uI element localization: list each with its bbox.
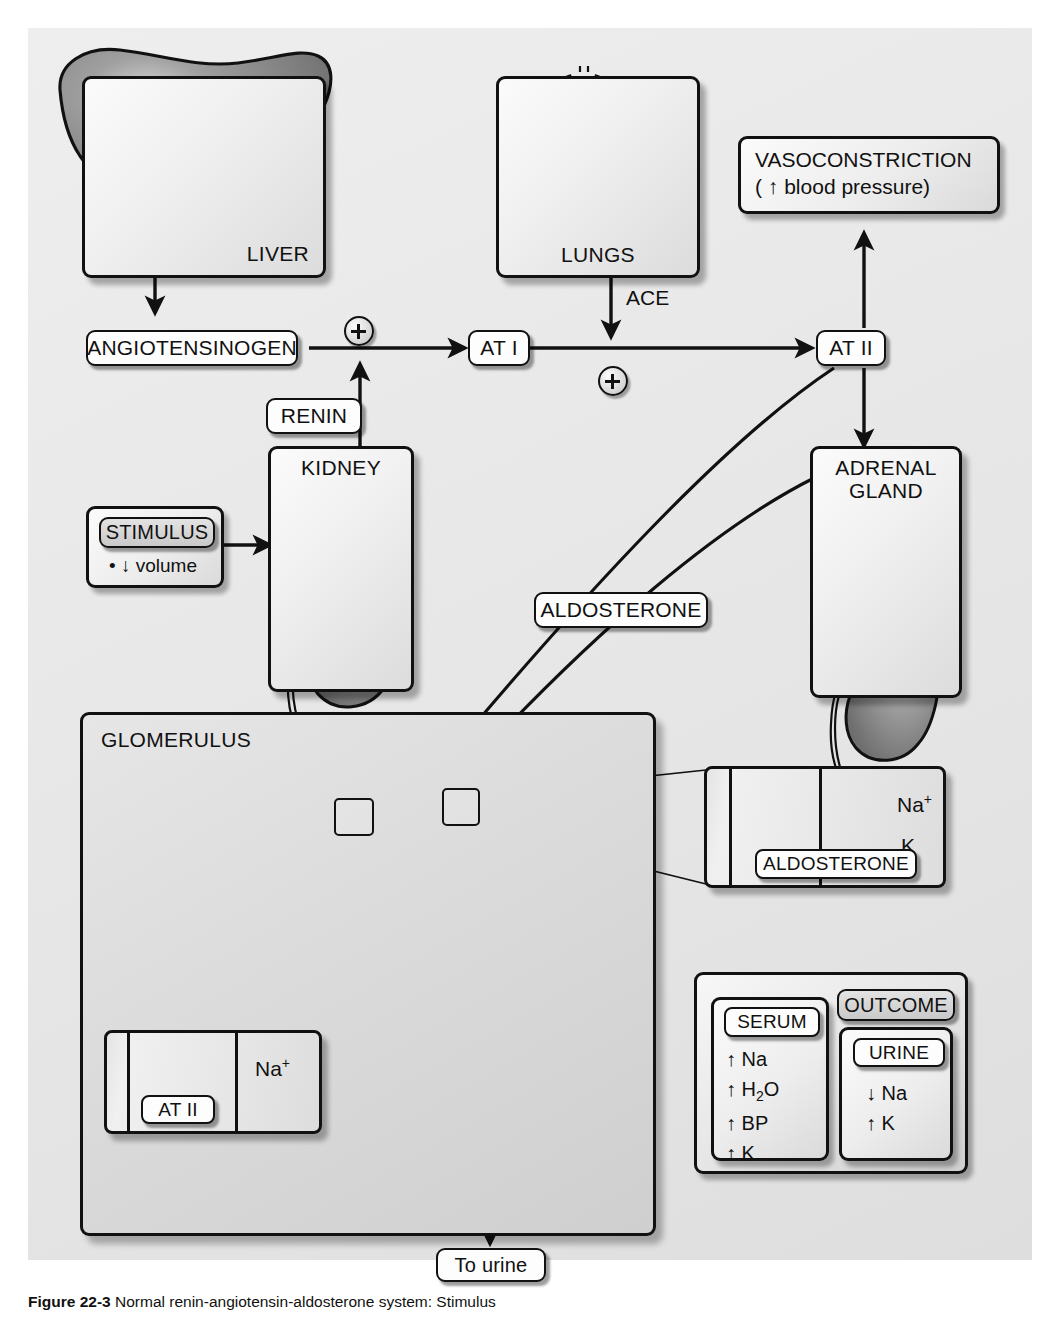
up-arrow-icon: ↑	[768, 175, 779, 198]
membrane-line-outer	[127, 1033, 130, 1131]
glomerulus-panel-label: GLOMERULUS	[101, 729, 251, 752]
locator-box-at2[interactable]	[334, 798, 374, 836]
vasoconstriction-box: VASOCONSTRICTION ( ↑ blood pressure)	[738, 136, 1000, 214]
urine-items: ↓ Na ↑ K	[866, 1078, 907, 1139]
serum-item-1: ↑ H2O	[726, 1074, 779, 1107]
angiotensinogen-pill[interactable]: ANGIOTENSINOGEN	[86, 330, 298, 366]
lungs-panel: LUNGS	[496, 76, 700, 278]
membrane-line-outer	[729, 769, 732, 885]
membrane-line-inner	[235, 1033, 238, 1131]
serum-box: SERUM ↑ Na ↑ H2O ↑ BP ↑ K	[711, 997, 829, 1161]
up-arrow-icon: ↑	[726, 1048, 736, 1070]
to-urine-pill[interactable]: To urine	[436, 1248, 546, 1282]
figure-caption: Figure 22-3 Normal renin-angiotensin-ald…	[28, 1292, 1028, 1321]
up-arrow-icon: ↑	[726, 1078, 736, 1100]
urine-item-label: K	[882, 1112, 895, 1134]
aldosterone-inset-pill[interactable]: ALDOSTERONE	[755, 849, 917, 879]
ion-charge-na: +	[282, 1055, 290, 1071]
figure-caption-label: Figure 22-3	[28, 1293, 111, 1310]
kidney-panel: KIDNEY	[268, 446, 414, 692]
serum-item-label: K	[742, 1142, 755, 1164]
aldosterone-inset-ion-0: Na+	[897, 791, 932, 817]
stimulus-item-0: • ↓ volume	[109, 555, 197, 577]
liver-panel-label: LIVER	[247, 243, 309, 266]
at2-pill[interactable]: AT II	[816, 330, 886, 366]
at2-inset-pill[interactable]: AT II	[141, 1095, 215, 1124]
up-arrow-icon: ↑	[726, 1112, 736, 1134]
serum-item-3: ↑ K	[726, 1138, 779, 1168]
at1-pill[interactable]: AT I	[468, 330, 530, 366]
urine-title-pill[interactable]: URINE	[853, 1038, 945, 1067]
ion-label-na: Na	[897, 793, 924, 816]
outcome-box: SERUM ↑ Na ↑ H2O ↑ BP ↑ K	[694, 972, 968, 1174]
vasoconstriction-text: blood pressure)	[784, 175, 930, 198]
plus-circle-renin	[344, 316, 374, 346]
serum-item-label: BP	[742, 1112, 769, 1134]
up-arrow-icon: ↑	[726, 1142, 736, 1164]
urine-item-0: ↓ Na	[866, 1078, 907, 1108]
adrenal-panel: ADRENAL GLAND	[810, 446, 962, 698]
serum-title-pill[interactable]: SERUM	[724, 1007, 820, 1037]
vasoconstriction-line1: VASOCONSTRICTION	[755, 147, 983, 174]
outcome-title-pill[interactable]: OUTCOME	[837, 989, 955, 1021]
serum-item-2: ↑ BP	[726, 1108, 779, 1138]
ion-charge-na: +	[924, 791, 932, 807]
serum-item-label: Na	[742, 1048, 768, 1070]
ace-label: ACE	[626, 286, 669, 310]
plus-circle-ace	[598, 366, 628, 396]
diagram-canvas: LIVER LUNGS KIDNEY ADRENAL GLAND ANGIOTE…	[28, 28, 1032, 1260]
urine-item-label: Na	[882, 1082, 908, 1104]
at2-inset-ion-0: Na+	[255, 1055, 290, 1081]
figure-caption-text: Normal renin-angiotensin-aldosterone sys…	[115, 1293, 496, 1310]
aldosterone-pill[interactable]: ALDOSTERONE	[534, 592, 708, 628]
at2-inset-box: Na+ AT II	[104, 1030, 322, 1134]
aldosterone-inset-box: Na+ K ALDOSTERONE	[704, 766, 946, 888]
vasoconstriction-paren-open: (	[755, 175, 768, 198]
stimulus-title-pill[interactable]: STIMULUS	[99, 517, 215, 548]
ion-label-na: Na	[255, 1057, 282, 1080]
stimulus-box: STIMULUS • ↓ volume	[86, 506, 224, 588]
urine-box: URINE ↓ Na ↑ K	[839, 1027, 953, 1161]
down-arrow-icon: ↓	[866, 1082, 876, 1104]
kidney-panel-label: KIDNEY	[301, 457, 381, 480]
up-arrow-icon: ↑	[866, 1112, 876, 1134]
lungs-panel-label: LUNGS	[561, 244, 635, 267]
serum-item-0: ↑ Na	[726, 1044, 779, 1074]
glomerulus-panel: GLOMERULUS	[80, 712, 656, 1236]
urine-item-1: ↑ K	[866, 1108, 907, 1138]
adrenal-panel-label: ADRENAL GLAND	[835, 457, 936, 502]
liver-panel: LIVER	[82, 76, 326, 278]
renin-pill[interactable]: RENIN	[266, 398, 362, 434]
vasoconstriction-line2: ( ↑ blood pressure)	[755, 174, 983, 201]
locator-box-aldosterone[interactable]	[442, 788, 480, 826]
serum-items: ↑ Na ↑ H2O ↑ BP ↑ K	[726, 1044, 779, 1168]
